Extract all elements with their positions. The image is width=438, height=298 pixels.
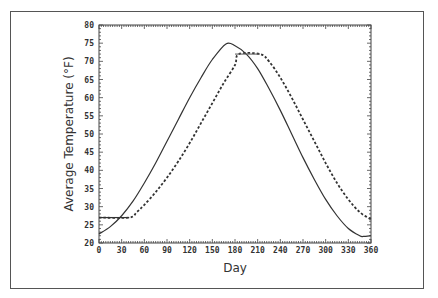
x-tick-labels: 0306090120150180210240270300330360 bbox=[97, 246, 379, 255]
y-tick-label: 60 bbox=[84, 94, 94, 103]
plot-axes bbox=[99, 25, 371, 243]
x-axis-title: Day bbox=[223, 261, 247, 275]
x-tick-label: 120 bbox=[182, 246, 197, 255]
line-chart: 0306090120150180210240270300330360 20253… bbox=[0, 0, 438, 298]
x-tick-label: 210 bbox=[250, 246, 265, 255]
y-tick-label: 80 bbox=[84, 21, 94, 30]
y-tick-label: 55 bbox=[84, 112, 94, 121]
x-tick-label: 60 bbox=[140, 246, 150, 255]
y-tick-label: 40 bbox=[84, 166, 94, 175]
x-tick-label: 330 bbox=[341, 246, 356, 255]
y-tick-label: 45 bbox=[84, 148, 94, 157]
y-tick-label: 20 bbox=[84, 239, 94, 248]
y-tick-label: 25 bbox=[84, 221, 94, 230]
x-tick-label: 0 bbox=[97, 246, 102, 255]
y-tick-labels: 20253035404550556065707580 bbox=[84, 21, 94, 248]
axis-ticks bbox=[99, 25, 371, 243]
x-tick-label: 30 bbox=[117, 246, 127, 255]
x-tick-label: 360 bbox=[364, 246, 379, 255]
data-series bbox=[99, 43, 371, 237]
x-tick-label: 90 bbox=[162, 246, 172, 255]
dashed-temperature-curve bbox=[99, 53, 371, 219]
solid-temperature-curve bbox=[99, 43, 371, 237]
plot-border bbox=[99, 25, 371, 243]
x-tick-label: 240 bbox=[273, 246, 288, 255]
y-tick-label: 35 bbox=[84, 185, 94, 194]
x-tick-label: 150 bbox=[205, 246, 220, 255]
x-tick-label: 270 bbox=[296, 246, 311, 255]
x-tick-label: 300 bbox=[318, 246, 333, 255]
y-tick-label: 65 bbox=[84, 76, 94, 85]
y-axis-title: Average Temperature (°F) bbox=[62, 56, 76, 211]
y-tick-label: 50 bbox=[84, 130, 94, 139]
y-tick-label: 75 bbox=[84, 39, 94, 48]
y-tick-label: 70 bbox=[84, 57, 94, 66]
x-tick-label: 180 bbox=[228, 246, 243, 255]
y-tick-label: 30 bbox=[84, 203, 94, 212]
